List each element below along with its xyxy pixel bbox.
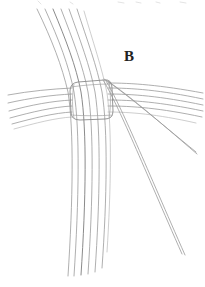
- horizontal-left-strand-2: [8, 94, 72, 103]
- diagonal-strand-lower-b: [106, 81, 185, 255]
- scan-artifact-group: [38, 1, 186, 4]
- figure-container: B: [0, 0, 205, 287]
- diagonal-strand-upper-b: [106, 80, 197, 154]
- figure-label-b: B: [124, 49, 135, 64]
- vertical-bundle-strand-3: [53, 9, 85, 275]
- wrap-binding-turn-bottom: [71, 115, 113, 116]
- vertical-bundle-strand-5: [69, 9, 99, 272]
- horizontal-left-strand-1: [8, 88, 72, 95]
- vertical-bundle-strand-1: [37, 9, 72, 276]
- horizontal-left-bundle: [8, 88, 72, 129]
- horizontal-right-strand-6: [108, 112, 196, 123]
- horizontal-left-strand-4: [10, 106, 72, 118]
- vertical-bundle: [37, 9, 110, 276]
- horizontal-left-strand-3: [9, 100, 72, 111]
- vertical-bundle-strand-7: [84, 11, 110, 252]
- fiber-bundle-illustration: [0, 0, 205, 287]
- horizontal-left-strand-6: [14, 117, 72, 129]
- vertical-bundle-strand-2: [45, 9, 78, 276]
